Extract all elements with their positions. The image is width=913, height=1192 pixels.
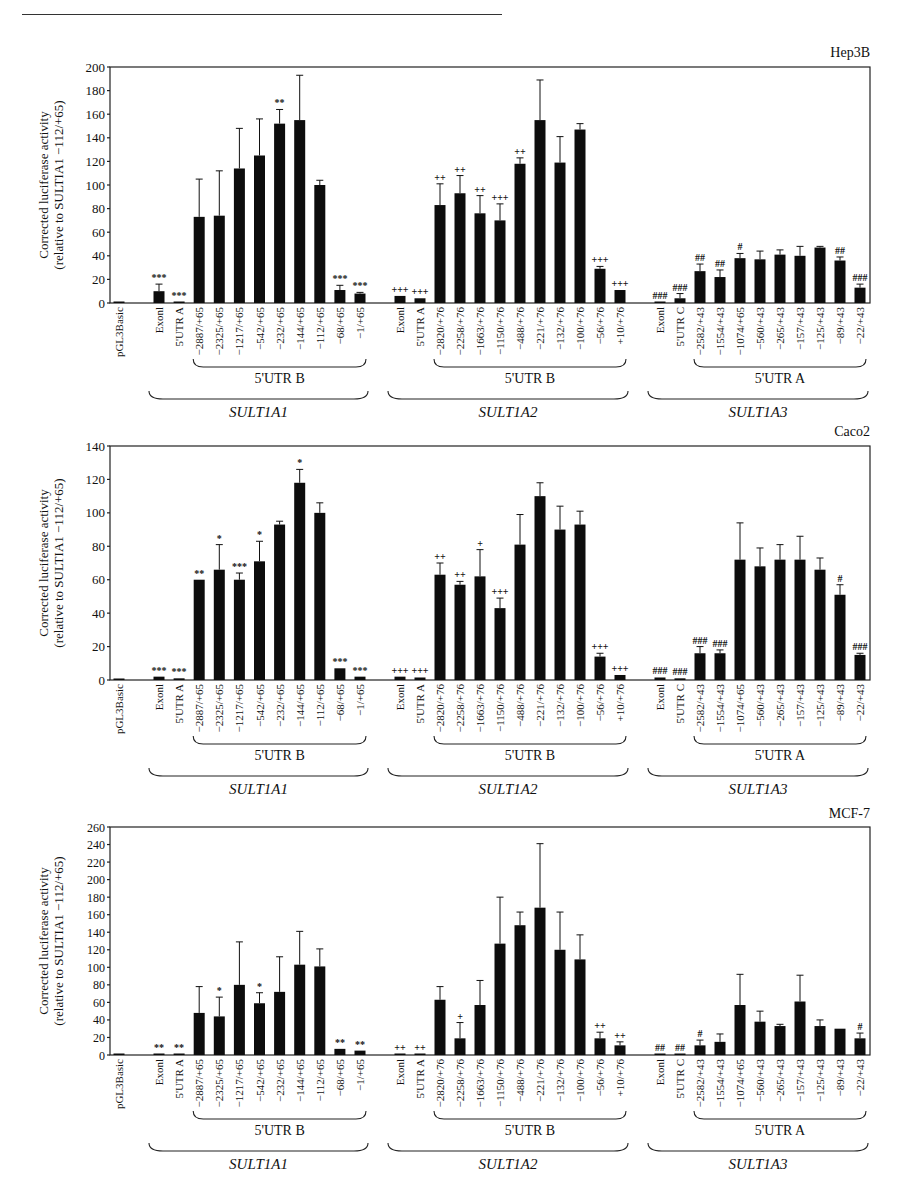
significance-marker: +++ bbox=[411, 286, 428, 297]
x-tick-label: −232/+65 bbox=[274, 1059, 286, 1102]
significance-marker: +++ bbox=[611, 663, 628, 674]
bar bbox=[114, 679, 125, 681]
x-tick-label: −1217/+65 bbox=[233, 684, 245, 733]
x-tick-label: −1150/+76 bbox=[494, 684, 506, 733]
x-tick-label: +10/+76 bbox=[614, 307, 626, 345]
significance-marker: * bbox=[217, 985, 222, 996]
bar bbox=[154, 1054, 165, 1056]
significance-marker: ### bbox=[853, 272, 868, 283]
y-axis-label: Corrected luciferase activity(relative t… bbox=[36, 100, 66, 269]
bar bbox=[334, 1049, 345, 1055]
subgroup-label: 5'UTR B bbox=[254, 1123, 304, 1138]
bar bbox=[415, 677, 426, 680]
bar bbox=[455, 585, 466, 680]
significance-marker: +++ bbox=[411, 665, 428, 676]
bar bbox=[475, 576, 486, 680]
gene-label: SULT1A2 bbox=[479, 404, 538, 420]
bar bbox=[755, 566, 766, 680]
subgroup-label: 5'UTR A bbox=[755, 371, 806, 386]
x-tick-label: −488/+76 bbox=[514, 307, 526, 350]
bar bbox=[395, 1054, 406, 1056]
significance-marker: +++ bbox=[391, 284, 408, 295]
x-tick-label: −56/+76 bbox=[594, 1059, 606, 1097]
x-tick-label: −1150/+76 bbox=[494, 307, 506, 356]
x-tick-label: −112/+65 bbox=[314, 684, 326, 727]
y-tick-label: 100 bbox=[86, 505, 106, 520]
significance-marker: # bbox=[738, 241, 743, 252]
y-tick-label: 20 bbox=[93, 1031, 105, 1045]
x-tick-label: −2887/+65 bbox=[193, 684, 205, 733]
bar bbox=[355, 677, 366, 680]
x-tick-label: −488/+76 bbox=[514, 1059, 526, 1102]
x-tick-label: −89/+43 bbox=[834, 684, 846, 722]
x-tick-label: −265/+43 bbox=[774, 1059, 786, 1102]
y-tick-label: 0 bbox=[99, 296, 106, 311]
significance-marker: ## bbox=[695, 252, 705, 263]
chart-title: MCF-7 bbox=[829, 806, 870, 821]
gene-brace bbox=[648, 1143, 868, 1151]
significance-marker: ### bbox=[853, 641, 868, 652]
subgroup-brace bbox=[193, 1111, 366, 1119]
x-tick-label: −68/+65 bbox=[334, 307, 346, 345]
x-tick-label: −232/+65 bbox=[274, 307, 286, 350]
x-tick-label: −144/+65 bbox=[294, 684, 306, 727]
x-tick-label: 5'UTR C bbox=[674, 684, 686, 724]
x-tick-label: −1074/+65 bbox=[734, 1059, 746, 1108]
subgroup-label: 5'UTR B bbox=[254, 748, 304, 763]
chart-caco2: Caco2020406080100120140Corrected lucifer… bbox=[0, 420, 913, 800]
bar bbox=[815, 1026, 826, 1055]
subgroup-label: 5'UTR A bbox=[755, 748, 806, 763]
x-tick-label: −1554/+43 bbox=[714, 684, 726, 733]
bar bbox=[234, 580, 245, 680]
gene-label: SULT1A1 bbox=[229, 404, 288, 420]
x-tick-label: Exonl bbox=[654, 307, 666, 333]
bar bbox=[755, 1022, 766, 1055]
bar bbox=[515, 545, 526, 680]
x-tick-label: −89/+43 bbox=[834, 1059, 846, 1097]
significance-marker: *** bbox=[232, 561, 247, 572]
bar bbox=[515, 164, 526, 303]
significance-marker: ** bbox=[275, 97, 285, 108]
bar bbox=[835, 261, 846, 303]
bar bbox=[855, 655, 866, 680]
gene-brace bbox=[388, 768, 628, 776]
subgroup-label: 5'UTR B bbox=[254, 371, 304, 386]
x-tick-label: −2820/+76 bbox=[434, 1059, 446, 1108]
bar bbox=[535, 496, 546, 680]
y-tick-label: 80 bbox=[92, 201, 105, 216]
x-tick-label: −157/+43 bbox=[794, 307, 806, 350]
bar bbox=[835, 1029, 846, 1055]
x-tick-label: Exonl bbox=[394, 1059, 406, 1085]
bar bbox=[795, 560, 806, 680]
y-axis-label: Corrected luciferase activity(relative t… bbox=[36, 478, 66, 647]
x-tick-label: −132/+76 bbox=[554, 1059, 566, 1102]
y-tick-label: 80 bbox=[92, 539, 105, 554]
bar bbox=[695, 271, 706, 303]
significance-marker: +++ bbox=[611, 278, 628, 289]
bar bbox=[675, 298, 686, 303]
bar bbox=[735, 1005, 746, 1055]
subgroup-brace bbox=[193, 736, 366, 744]
svg-text:Corrected luciferase activity: Corrected luciferase activity bbox=[36, 489, 51, 637]
bar bbox=[254, 156, 265, 304]
svg-text:Corrected luciferase activity: Corrected luciferase activity bbox=[36, 111, 51, 259]
bar bbox=[415, 1054, 426, 1056]
significance-marker: *** bbox=[152, 272, 167, 283]
x-tick-label: −1/+65 bbox=[354, 307, 366, 339]
bar bbox=[214, 1016, 225, 1055]
x-tick-label: Exonl bbox=[153, 684, 165, 710]
gene-label: SULT1A3 bbox=[729, 1156, 788, 1172]
y-tick-label: 40 bbox=[92, 248, 105, 263]
bar bbox=[495, 220, 506, 303]
bar bbox=[715, 1042, 726, 1055]
gene-brace bbox=[648, 768, 868, 776]
significance-marker: *** bbox=[172, 666, 187, 677]
bar bbox=[194, 1013, 205, 1055]
significance-marker: ++ bbox=[454, 569, 466, 580]
significance-marker: ### bbox=[693, 635, 708, 646]
bar bbox=[775, 1026, 786, 1055]
y-tick-label: 100 bbox=[86, 178, 106, 193]
bar bbox=[435, 205, 446, 303]
bar bbox=[294, 483, 305, 680]
bar bbox=[154, 291, 165, 303]
